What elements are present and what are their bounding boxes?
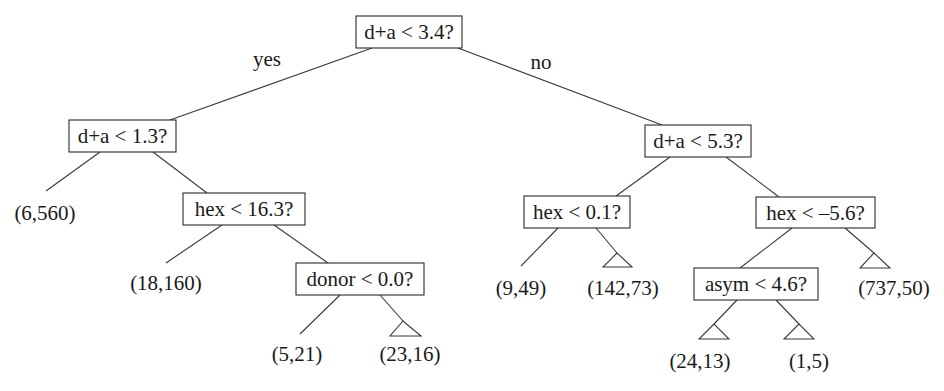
edge-asym-left [714,300,737,324]
leaf-label: (9,49) [496,276,547,300]
edge-donor-right [380,295,403,321]
leaf-label: (5,21) [272,342,323,366]
decision-node-hex-0-1: hex < 0.1? [524,196,630,228]
subtree-triangle-icon [784,324,814,339]
node-label: donor < 0.0? [307,267,414,291]
leaf-label: (23,16) [379,342,440,366]
edge-hexm56-right [845,228,874,253]
edge-asym-right [776,300,799,324]
branch-label-yes: yes [253,47,281,71]
decision-node-asym-4-6: asym < 4.6? [694,268,818,300]
decision-node-root: d+a < 3.4? [356,16,462,48]
subtree-triangle-icon [603,253,632,267]
edge-da13-right [153,152,207,193]
decision-node-da-5-3: d+a < 5.3? [645,125,751,157]
edge-donor-left [300,295,340,334]
leaf-label: (18,160) [130,271,202,295]
edge-hex163-left [166,225,222,263]
leaf-label: (142,73) [587,276,659,300]
node-label: d+a < 5.3? [653,129,743,153]
subtree-triangle-icon [860,253,890,268]
leaf-label: (24,13) [669,349,730,373]
leaf-label: (737,50) [858,276,930,300]
node-label: hex < –5.6? [766,201,865,225]
edge-hexm56-left [740,228,792,268]
decision-node-hex-minus-5-6: hex < –5.6? [756,197,875,228]
decision-tree-diagram: yes no d+a < 3.4? d+a < 1.3? hex < 16.3?… [0,0,944,391]
decision-node-hex-16-3: hex < 16.3? [183,193,305,225]
decision-node-da-1-3: d+a < 1.3? [69,120,176,152]
node-label: hex < 0.1? [533,200,621,224]
node-label: d+a < 1.3? [78,124,168,148]
edge-hex01-left [521,228,558,266]
decision-node-donor-0-0: donor < 0.0? [296,263,424,295]
edge-da53-right [726,157,779,197]
subtree-triangle-icon [390,321,421,336]
node-label: d+a < 3.4? [364,20,454,44]
leaf-label: (1,5) [789,349,829,373]
edge-da53-left [616,157,670,196]
node-label: hex < 16.3? [195,197,294,221]
edge-hex163-right [274,225,328,263]
edge-da13-left [46,152,100,191]
branch-label-no: no [531,50,552,74]
node-label: asym < 4.6? [705,272,807,296]
edge-root-no [458,48,662,125]
leaf-label: (6,560) [14,201,75,225]
subtree-triangle-icon [699,324,729,339]
edge-hex01-right [596,228,617,253]
